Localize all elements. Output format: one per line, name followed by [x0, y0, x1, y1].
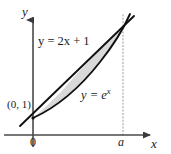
linear-function-line	[20, 16, 134, 126]
curve-equation-label: y = ex	[81, 87, 111, 102]
intersection-point-marker	[31, 116, 34, 119]
line-equation-label: y = 2x + 1	[38, 35, 90, 48]
y-axis-label: y	[22, 5, 28, 18]
curve-equation-base: y = e	[81, 88, 107, 102]
figure-container: y x 0 a y = 2x + 1 y = ex (0, 1)	[0, 0, 171, 154]
origin-label: 0	[30, 136, 36, 148]
x-axis-label: x	[151, 137, 157, 150]
intercept-point-label: (0, 1)	[7, 99, 31, 110]
math-figure-canvas	[0, 0, 171, 154]
x-tick-label-a: a	[118, 136, 124, 148]
curve-equation-exponent: x	[107, 86, 111, 96]
